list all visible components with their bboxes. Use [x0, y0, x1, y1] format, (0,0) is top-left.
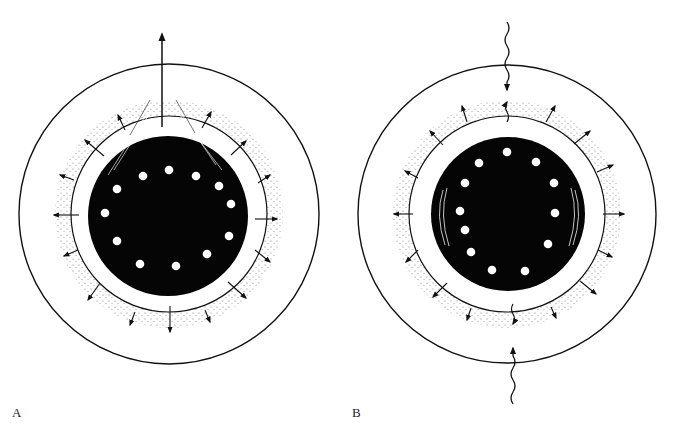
diagram-canvas: A	[0, 0, 676, 434]
dark-core-b	[431, 137, 585, 291]
panel-label-b: B	[352, 405, 361, 420]
panel-label-a: A	[12, 405, 22, 420]
wavy-arrow-top	[505, 22, 509, 90]
panel-b: B	[352, 22, 656, 420]
panel-a: A	[12, 34, 319, 420]
wavy-arrow-bottom	[511, 348, 515, 404]
dark-core-a	[88, 136, 248, 296]
